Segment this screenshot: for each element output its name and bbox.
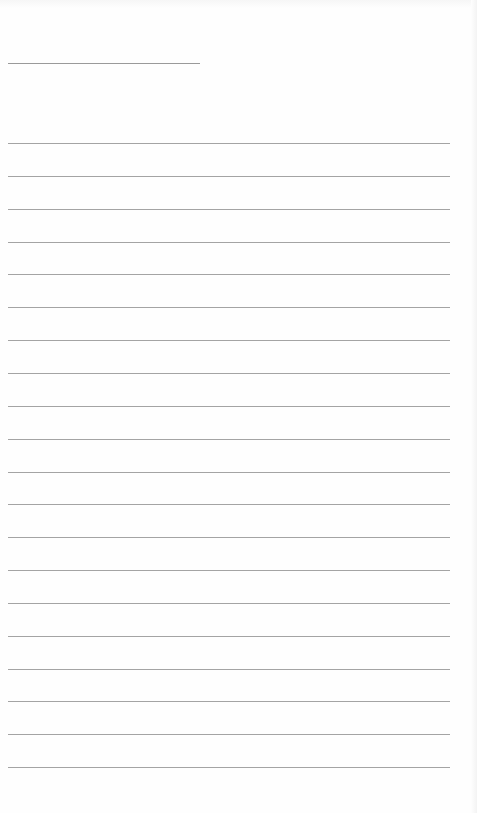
- writing-line: [8, 439, 450, 440]
- writing-line: [8, 472, 450, 473]
- writing-lines-area: [8, 0, 450, 813]
- writing-line: [8, 176, 450, 177]
- writing-line: [8, 242, 450, 243]
- writing-line: [8, 340, 450, 341]
- page-right-edge: [471, 0, 477, 813]
- writing-line: [8, 209, 450, 210]
- lined-paper-page: [0, 0, 477, 813]
- writing-line: [8, 669, 450, 670]
- writing-line: [8, 701, 450, 702]
- writing-line: [8, 406, 450, 407]
- writing-line: [8, 537, 450, 538]
- writing-line: [8, 636, 450, 637]
- writing-line: [8, 603, 450, 604]
- writing-line: [8, 767, 450, 768]
- writing-line: [8, 307, 450, 308]
- writing-line: [8, 570, 450, 571]
- writing-line: [8, 373, 450, 374]
- writing-line: [8, 504, 450, 505]
- writing-line: [8, 143, 450, 144]
- writing-line: [8, 274, 450, 275]
- writing-line: [8, 734, 450, 735]
